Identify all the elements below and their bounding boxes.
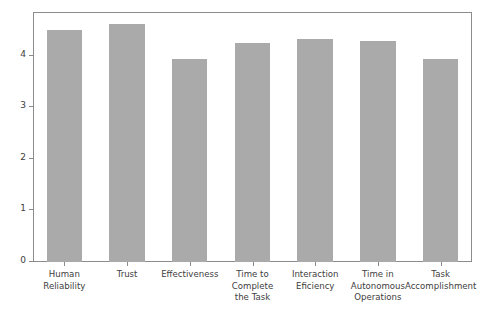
bar	[360, 41, 395, 262]
y-tick-label: 2	[20, 152, 26, 162]
x-tick-mark	[315, 262, 316, 266]
x-tick-mark	[190, 262, 191, 266]
bar-chart-figure: 01234 Human ReliabilityTrustEffectivenes…	[0, 0, 492, 317]
bar	[423, 59, 458, 262]
y-tick-mark	[29, 158, 33, 159]
x-tick-mark	[253, 262, 254, 266]
y-tick-mark	[29, 55, 33, 56]
y-tick-mark	[29, 209, 33, 210]
x-axis: Human ReliabilityTrustEffectivenessTime …	[0, 262, 492, 317]
y-tick-label: 1	[20, 203, 26, 213]
x-tick-mark	[378, 262, 379, 266]
y-tick-label: 4	[20, 49, 26, 59]
x-tick-label: Task Accomplishment	[398, 269, 484, 292]
x-tick-mark	[127, 262, 128, 266]
bar	[297, 39, 332, 262]
x-tick-mark	[64, 262, 65, 266]
y-tick-mark	[29, 106, 33, 107]
x-tick-mark	[441, 262, 442, 266]
y-tick-label: 3	[20, 100, 26, 110]
bar	[47, 30, 82, 262]
bar	[235, 43, 270, 262]
bar	[109, 24, 144, 262]
bar	[172, 59, 207, 262]
